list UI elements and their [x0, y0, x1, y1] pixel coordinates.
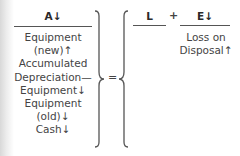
assets-items: Equipment (new)↑ Accumulated Depreciatio… — [10, 31, 96, 137]
equals-sign: = — [108, 71, 117, 84]
assets-item: Equipment↓ — [10, 84, 96, 97]
assets-header-rule — [14, 26, 92, 27]
left-brace-icon — [117, 10, 129, 148]
equity-header-rule — [180, 25, 230, 26]
equity-header: E↓ — [180, 10, 230, 22]
equity-item: Loss on — [176, 31, 236, 44]
right-brace-icon — [94, 10, 106, 148]
assets-header: A↓ — [14, 10, 92, 22]
equity-items: Loss on Disposal↑ — [176, 31, 236, 57]
plus-sign: + — [169, 9, 178, 22]
assets-item: Equipment — [10, 97, 96, 110]
assets-item: (old)↓ — [10, 110, 96, 123]
liabilities-header: L — [133, 10, 166, 22]
assets-item: Accumulated — [10, 57, 96, 70]
assets-item: Cash↓ — [10, 123, 96, 136]
assets-item: Depreciation— — [10, 71, 96, 84]
assets-item: (new)↑ — [10, 44, 96, 57]
assets-item: Equipment — [10, 31, 96, 44]
equity-item: Disposal↑ — [176, 44, 236, 57]
liabilities-header-rule — [133, 25, 166, 26]
